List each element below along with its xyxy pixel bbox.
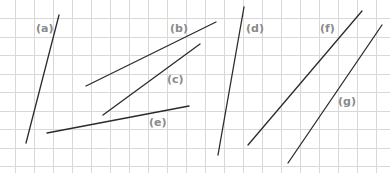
segment-f xyxy=(248,11,362,145)
segment-g xyxy=(288,25,382,163)
label-b: (b) xyxy=(170,23,188,34)
segment-d xyxy=(218,7,244,155)
label-f: (f) xyxy=(320,23,335,34)
label-a: (a) xyxy=(36,23,53,34)
label-c: (c) xyxy=(167,74,184,85)
label-d: (d) xyxy=(246,23,264,34)
segment-c xyxy=(103,44,200,115)
label-g: (g) xyxy=(338,96,356,107)
label-e: (e) xyxy=(149,117,167,128)
segment-b xyxy=(86,22,216,86)
